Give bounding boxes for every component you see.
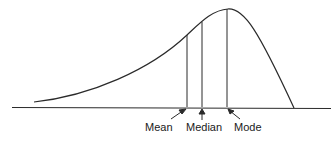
median-label: Median bbox=[186, 121, 222, 133]
mean-arrow-icon bbox=[171, 109, 186, 119]
distribution-curve bbox=[34, 9, 294, 108]
mode-arrow-icon bbox=[228, 109, 240, 119]
mean-label: Mean bbox=[145, 121, 173, 133]
mode-label: Mode bbox=[234, 121, 262, 133]
median-arrow-icon bbox=[199, 109, 205, 120]
skewed-distribution-diagram: Mean Median Mode bbox=[0, 0, 336, 143]
x-axis-baseline bbox=[12, 108, 331, 109]
